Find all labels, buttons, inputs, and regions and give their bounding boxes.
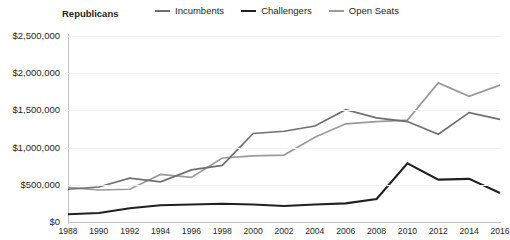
- x-axis-tick-label: 1996: [182, 226, 201, 236]
- x-axis-tick-label: 1998: [213, 226, 232, 236]
- legend-item-label: Incumbents: [175, 6, 224, 16]
- legend-item-open-seats[interactable]: Open Seats: [329, 6, 399, 16]
- legend-item-label: Challengers: [261, 6, 312, 16]
- x-axis-tick-label: 1988: [58, 226, 77, 236]
- y-axis-tick-label: $0: [0, 217, 64, 227]
- series-layer: [68, 36, 500, 222]
- gridline: [68, 185, 500, 186]
- legend-item-incumbents[interactable]: Incumbents: [155, 6, 224, 16]
- x-axis-tick-label: 2010: [398, 226, 417, 236]
- x-axis-tick-label: 1994: [151, 226, 170, 236]
- x-axis-tick-label: 2016: [490, 226, 509, 236]
- gridline: [68, 73, 500, 74]
- x-axis-tick-label: 2002: [274, 226, 293, 236]
- y-axis-tick-label: $1,500,000: [0, 105, 64, 115]
- x-axis-tick-label: 2014: [460, 226, 479, 236]
- gridline: [68, 148, 500, 149]
- legend-item-challengers[interactable]: Challengers: [241, 6, 312, 16]
- chart-title: Republicans: [62, 8, 119, 19]
- series-line-open-seats: [68, 83, 500, 190]
- x-axis-tick-label: 2000: [244, 226, 263, 236]
- x-axis-tick-label: 2012: [429, 226, 448, 236]
- x-axis-labels: 1988199019921994199619982000200220042006…: [68, 226, 501, 240]
- legend-swatch-icon: [329, 10, 344, 12]
- x-axis-tick-label: 1990: [89, 226, 108, 236]
- y-axis-tick-label: $1,000,000: [0, 143, 64, 153]
- legend-item-label: Open Seats: [349, 6, 399, 16]
- gridline: [68, 110, 500, 111]
- x-axis-tick-label: 2006: [336, 226, 355, 236]
- x-axis-tick-label: 2004: [305, 226, 324, 236]
- y-axis-tick-label: $500,000: [0, 180, 64, 190]
- y-axis-tick-label: $2,000,000: [0, 68, 64, 78]
- y-axis-tick-label: $2,500,000: [0, 31, 64, 41]
- y-axis-labels: $0$500,000$1,000,000$1,500,000$2,000,000…: [0, 0, 64, 240]
- legend-swatch-icon: [241, 10, 256, 12]
- gridline: [68, 36, 500, 37]
- x-axis-line: [68, 222, 501, 223]
- x-axis-tick-label: 1992: [120, 226, 139, 236]
- plot-area: [68, 36, 500, 222]
- legend-swatch-icon: [155, 10, 170, 12]
- chart-legend: IncumbentsChallengersOpen Seats: [155, 3, 399, 18]
- x-axis-tick-label: 2008: [367, 226, 386, 236]
